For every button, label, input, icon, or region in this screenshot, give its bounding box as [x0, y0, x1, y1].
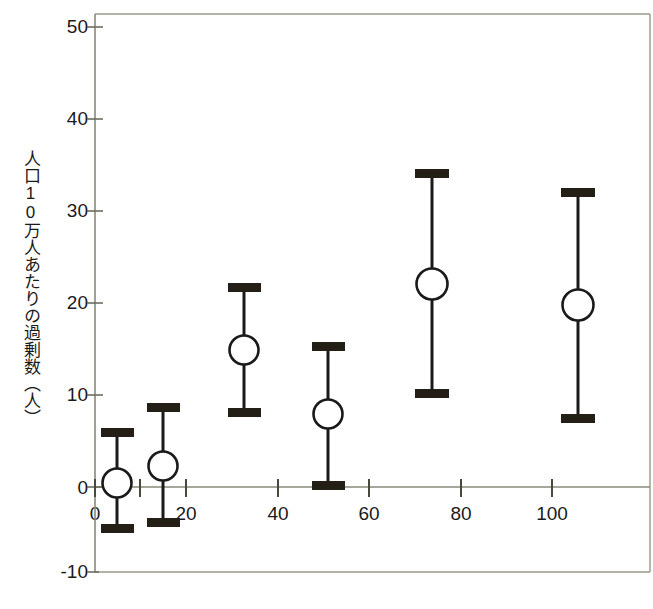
- data-marker: [563, 290, 594, 321]
- errorbar-point-4: [312, 342, 345, 490]
- errorbar-cap-upper: [228, 283, 261, 292]
- data-marker: [230, 336, 259, 365]
- errorbar-cap-lower: [312, 481, 345, 490]
- errorbar-cap-lower: [101, 524, 134, 533]
- errorbar-point-1: [101, 428, 134, 533]
- data-marker: [314, 400, 343, 429]
- errorbar-cap-upper: [415, 169, 449, 178]
- data-marker: [149, 452, 178, 481]
- data-marker: [417, 269, 448, 300]
- errorbar-point-2: [147, 403, 180, 527]
- errorbar-point-6: [561, 188, 595, 423]
- plot-area: [0, 0, 653, 609]
- errorbar-cap-lower: [228, 408, 261, 417]
- errorbar-cap-lower: [147, 518, 180, 527]
- data-marker: [103, 469, 132, 498]
- errorbar-point-5: [415, 169, 449, 398]
- errorbar-cap-upper: [312, 342, 345, 351]
- errorbar-point-3: [228, 283, 261, 417]
- errorbar-cap-lower: [415, 389, 449, 398]
- errorbar-cap-lower: [561, 414, 595, 423]
- errorbar-cap-upper: [101, 428, 134, 437]
- chart-figure: 人口10万人あたりの過剰数（人） 50 40 30 20 10 0 -10 0 …: [0, 0, 653, 609]
- errorbar-cap-upper: [561, 188, 595, 197]
- errorbar-cap-upper: [147, 403, 180, 412]
